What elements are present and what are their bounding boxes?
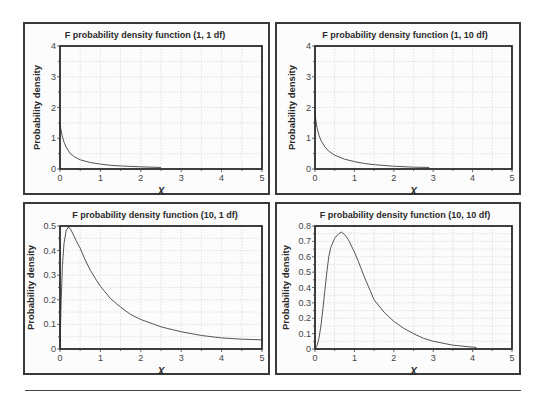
chart-title: F probability density function (1, 10 df… <box>322 30 488 40</box>
density-curve <box>60 123 161 168</box>
y-tick-label: 3 <box>51 72 56 82</box>
y-tick-label: 4 <box>51 41 56 51</box>
chart-title: F probability density function (10, 1 df… <box>72 210 238 220</box>
gridlines <box>60 46 262 169</box>
x-tick-label: 3 <box>431 353 436 363</box>
chart-svg-f-10-10: F probability density function (10, 10 d… <box>277 204 523 377</box>
y-tick-label: 2 <box>306 103 311 113</box>
x-tick-label: 5 <box>259 353 264 363</box>
y-tick-label: 0.1 <box>43 319 56 329</box>
y-tick-label: 0.4 <box>298 283 311 293</box>
curve-group <box>60 123 161 168</box>
bottom-divider-rule <box>25 390 521 391</box>
x-tick-label: 3 <box>179 173 184 183</box>
x-tick-label: 4 <box>470 353 475 363</box>
y-tick-label: 0.8 <box>298 221 311 231</box>
density-curve <box>315 232 477 349</box>
chart-panel-f-10-10: F probability density function (10, 10 d… <box>275 202 521 375</box>
chart-title: F probability density function (1, 1 df) <box>65 30 226 40</box>
curve-group <box>315 232 477 349</box>
chart-title: F probability density function (10, 10 d… <box>320 210 491 220</box>
x-tick-label: 4 <box>470 173 475 183</box>
chart-svg-f-10-1: F probability density function (10, 1 df… <box>25 204 272 377</box>
x-tick-label: 1 <box>352 353 357 363</box>
y-axis-label: Probability density <box>286 64 297 150</box>
gridlines <box>315 46 512 169</box>
y-tick-label: 2 <box>51 103 56 113</box>
y-tick-label: 0.1 <box>298 329 311 339</box>
y-axis-ticks: 01234 <box>306 41 315 174</box>
gridlines <box>315 226 512 349</box>
y-axis-label: Probability density <box>280 244 291 330</box>
density-curve <box>315 111 429 168</box>
x-tick-label: 5 <box>509 173 514 183</box>
x-axis-ticks: 012345 <box>57 169 264 183</box>
y-tick-label: 0.6 <box>298 252 311 262</box>
x-tick-label: 1 <box>98 353 103 363</box>
y-tick-label: 0.5 <box>43 221 56 231</box>
y-tick-label: 0 <box>306 344 311 354</box>
y-tick-label: 0.3 <box>43 270 56 280</box>
x-axis-ticks: 012345 <box>57 349 264 363</box>
y-axis-label: Probability density <box>25 244 36 330</box>
y-tick-label: 0 <box>51 164 56 174</box>
y-tick-label: 0.3 <box>298 298 311 308</box>
y-tick-label: 1 <box>306 133 311 143</box>
x-tick-label: 5 <box>509 353 514 363</box>
y-tick-label: 0 <box>51 344 56 354</box>
x-tick-label: 5 <box>259 173 264 183</box>
chart-svg-f-1-10: F probability density function (1, 10 df… <box>277 24 523 197</box>
x-tick-label: 4 <box>219 173 224 183</box>
y-tick-label: 4 <box>306 41 311 51</box>
gridlines <box>60 226 262 349</box>
x-axis-label: X <box>409 186 418 197</box>
y-tick-label: 0.4 <box>43 246 56 256</box>
y-tick-label: 0.7 <box>298 236 311 246</box>
x-tick-label: 3 <box>179 353 184 363</box>
y-tick-label: 0.2 <box>43 295 56 305</box>
y-tick-label: 0.5 <box>298 267 311 277</box>
y-tick-label: 3 <box>306 72 311 82</box>
x-tick-label: 3 <box>431 173 436 183</box>
x-tick-label: 1 <box>98 173 103 183</box>
x-axis-label: X <box>409 366 418 377</box>
x-tick-label: 0 <box>312 173 317 183</box>
chart-svg-f-1-1: F probability density function (1, 1 df)… <box>25 24 272 197</box>
x-tick-label: 1 <box>352 173 357 183</box>
y-tick-label: 0.2 <box>298 313 311 323</box>
x-axis-ticks: 012345 <box>312 349 514 363</box>
y-tick-label: 1 <box>51 133 56 143</box>
chart-panel-f-1-10: F probability density function (1, 10 df… <box>275 22 521 195</box>
x-axis-ticks: 012345 <box>312 169 514 183</box>
y-axis-ticks: 00.10.20.30.40.50.60.70.8 <box>298 221 315 354</box>
x-axis-label: X <box>157 366 166 377</box>
y-axis-label: Probability density <box>31 64 42 150</box>
x-tick-label: 2 <box>391 353 396 363</box>
x-tick-label: 2 <box>138 353 143 363</box>
x-tick-label: 2 <box>391 173 396 183</box>
x-tick-label: 0 <box>57 353 62 363</box>
x-tick-label: 0 <box>312 353 317 363</box>
chart-panel-f-10-1: F probability density function (10, 1 df… <box>23 202 270 375</box>
chart-panel-f-1-1: F probability density function (1, 1 df)… <box>23 22 270 195</box>
y-axis-ticks: 00.10.20.30.40.5 <box>43 221 60 354</box>
y-tick-label: 0 <box>306 164 311 174</box>
x-tick-label: 4 <box>219 353 224 363</box>
x-tick-label: 2 <box>138 173 143 183</box>
x-tick-label: 0 <box>57 173 62 183</box>
curve-group <box>315 111 429 168</box>
x-axis-label: X <box>157 186 166 197</box>
y-axis-ticks: 01234 <box>51 41 60 174</box>
